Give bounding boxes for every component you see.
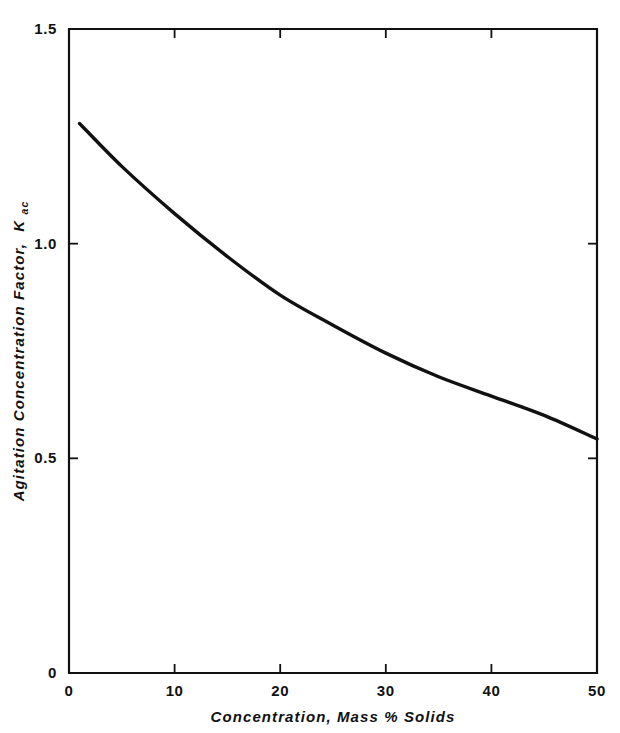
agitation-concentration-chart: 01020304050 00.51.01.5 Concentration, Ma…	[0, 0, 620, 733]
y-axis-title-subscript: ac	[18, 201, 30, 215]
x-tick-label: 20	[271, 682, 289, 699]
y-axis-title-text: Agitation Concentration Factor,	[10, 243, 27, 502]
chart-figure: 01020304050 00.51.01.5 Concentration, Ma…	[0, 0, 620, 733]
y-tick-label: 1.0	[34, 235, 57, 252]
chart-background	[0, 0, 620, 733]
x-tick-label: 50	[588, 682, 606, 699]
x-axis-title: Concentration, Mass % Solids	[210, 708, 455, 725]
y-tick-label: 0.5	[34, 449, 57, 466]
y-axis-title-symbol: K	[10, 220, 27, 232]
x-tick-label: 0	[65, 682, 74, 699]
y-tick-label: 1.5	[34, 20, 57, 37]
x-tick-label: 10	[166, 682, 184, 699]
y-tick-label: 0	[48, 664, 57, 681]
x-tick-label: 30	[377, 682, 395, 699]
x-tick-label: 40	[482, 682, 500, 699]
